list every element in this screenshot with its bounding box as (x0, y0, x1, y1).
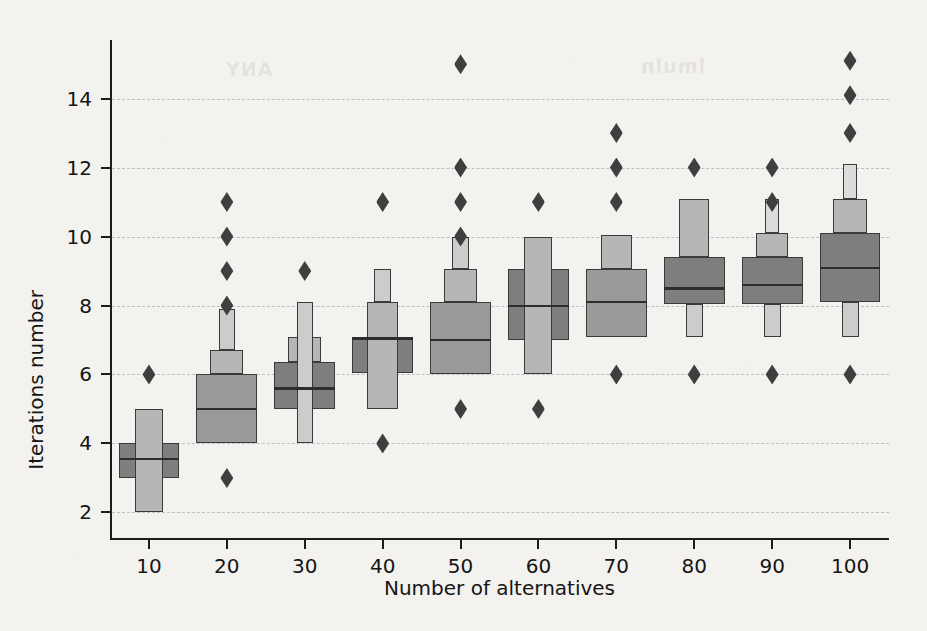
median-line (508, 305, 569, 307)
boxen-level (742, 257, 803, 304)
x-tick-label: 20 (214, 554, 239, 578)
y-tick-label: 8 (79, 294, 92, 318)
gridline (112, 512, 889, 513)
x-tick-label: 50 (448, 554, 473, 578)
x-tick-mark (460, 540, 462, 549)
outlier-marker (376, 192, 389, 212)
y-tick-label: 12 (67, 156, 92, 180)
median-line (586, 301, 647, 303)
boxen-level (686, 304, 703, 337)
y-tick-mark (101, 373, 110, 375)
boxen-level (664, 257, 725, 304)
x-tick-mark (382, 540, 384, 549)
y-tick-label: 14 (67, 87, 92, 111)
outlier-marker (298, 261, 311, 281)
x-tick-label: 70 (604, 554, 629, 578)
boxen-level (444, 269, 477, 302)
x-axis-label: Number of alternatives (110, 576, 889, 600)
outlier-marker (844, 85, 857, 105)
y-tick-label: 2 (79, 500, 92, 524)
y-tick-mark (101, 305, 110, 307)
outlier-marker (844, 123, 857, 143)
outlier-marker (844, 364, 857, 384)
boxen-level (374, 269, 390, 302)
outlier-marker (610, 158, 623, 178)
outlier-marker (844, 51, 857, 71)
median-line (742, 284, 803, 286)
boxen-level (764, 304, 781, 337)
x-tick-label: 60 (526, 554, 551, 578)
x-tick-mark (537, 540, 539, 549)
outlier-marker (688, 158, 701, 178)
outlier-marker (766, 364, 779, 384)
outlier-marker (610, 192, 623, 212)
boxen-level (842, 302, 859, 336)
y-tick-mark (101, 442, 110, 444)
x-tick-mark (849, 540, 851, 549)
median-line (820, 267, 881, 269)
y-tick-mark (101, 511, 110, 513)
boxen-level (135, 409, 163, 512)
x-tick-mark (226, 540, 228, 549)
outlier-marker (454, 399, 467, 419)
x-tick-label: 30 (292, 554, 317, 578)
outlier-marker (454, 192, 467, 212)
y-tick-mark (101, 236, 110, 238)
median-line (430, 339, 491, 341)
outlier-marker (454, 54, 467, 74)
median-line (119, 458, 180, 460)
outlier-marker (220, 468, 233, 488)
gridline (112, 443, 889, 444)
y-tick-label: 10 (67, 225, 92, 249)
y-axis-label: Iterations number (24, 290, 48, 470)
median-line (352, 337, 413, 339)
x-tick-mark (304, 540, 306, 549)
median-line (274, 387, 335, 389)
x-tick-label: 40 (370, 554, 395, 578)
outlier-marker (610, 364, 623, 384)
x-tick-mark (771, 540, 773, 549)
median-line (664, 287, 725, 289)
x-tick-mark (148, 540, 150, 549)
y-axis-line (110, 40, 112, 540)
x-tick-label: 80 (682, 554, 707, 578)
outlier-marker (454, 158, 467, 178)
x-tick-label: 100 (831, 554, 869, 578)
boxen-level (367, 302, 399, 409)
boxen-level (833, 199, 866, 233)
outlier-marker (688, 364, 701, 384)
outlier-marker (376, 433, 389, 453)
x-tick-label: 90 (759, 554, 784, 578)
boxen-level (679, 199, 709, 258)
y-tick-mark (101, 167, 110, 169)
boxen-level (297, 302, 313, 443)
outlier-marker (532, 192, 545, 212)
boxen-level (756, 233, 788, 257)
outlier-marker (220, 261, 233, 281)
x-tick-label: 10 (136, 554, 161, 578)
y-tick-mark (101, 98, 110, 100)
outlier-marker (766, 158, 779, 178)
plot-area: 2468101214 102030405060708090100 (110, 40, 889, 540)
y-tick-label: 6 (79, 362, 92, 386)
boxen-level (843, 164, 858, 198)
y-tick-label: 4 (79, 431, 92, 455)
outlier-marker (220, 227, 233, 247)
outlier-marker (532, 399, 545, 419)
x-tick-mark (615, 540, 617, 549)
boxen-level (210, 350, 243, 374)
outlier-marker (610, 123, 623, 143)
outlier-marker (142, 364, 155, 384)
median-line (196, 408, 257, 410)
chart-figure: ANY lmuln Iterations number 2468101214 1… (0, 0, 927, 631)
boxen-level (601, 235, 631, 269)
x-tick-mark (693, 540, 695, 549)
gridline (112, 99, 889, 100)
outlier-marker (220, 192, 233, 212)
